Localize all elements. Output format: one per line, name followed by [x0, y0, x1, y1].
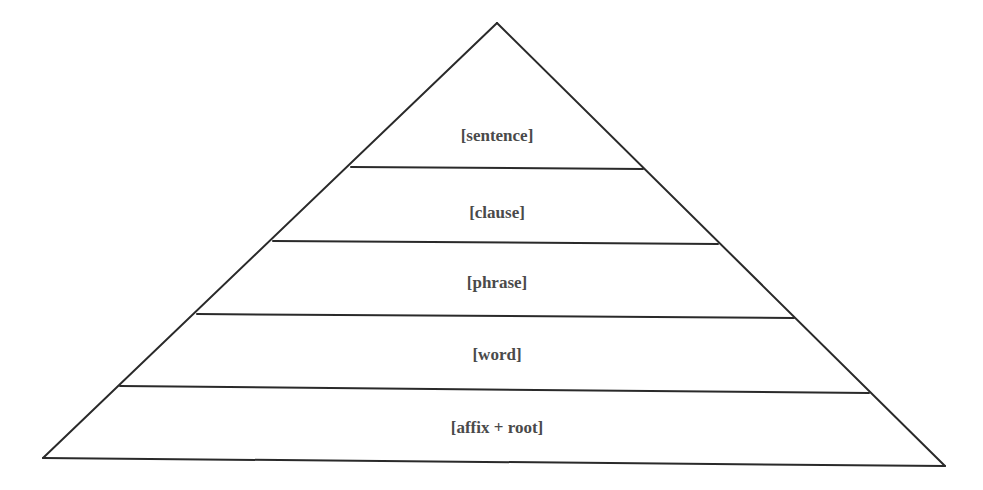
divider-sentence-clause	[351, 167, 643, 169]
level-label-affix-root: [affix + root]	[451, 418, 543, 437]
pyramid-diagram: [sentence] [clause] [phrase] [word] [aff…	[0, 0, 983, 490]
level-label-phrase: [phrase]	[467, 273, 527, 292]
pyramid-outline	[43, 23, 945, 466]
divider-phrase-word	[197, 314, 794, 318]
divider-word-affix	[120, 386, 869, 393]
left-edge	[43, 23, 497, 458]
level-label-clause: [clause]	[469, 203, 525, 222]
right-edge	[497, 23, 945, 466]
level-label-word: [word]	[472, 345, 521, 364]
base-line	[43, 458, 945, 466]
level-label-sentence: [sentence]	[461, 126, 534, 145]
divider-clause-phrase	[273, 241, 718, 244]
